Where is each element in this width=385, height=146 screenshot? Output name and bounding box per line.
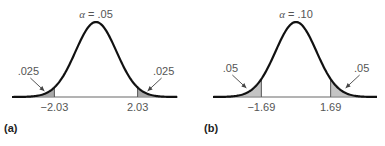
alpha-symbol: α (79, 8, 85, 20)
density-curve (12, 22, 177, 97)
right-critical-label: 2.03 (127, 101, 148, 113)
left-critical-label: −2.03 (40, 101, 68, 113)
alpha-symbol: α (279, 8, 285, 20)
left-tail-label: .025 (18, 65, 39, 77)
left-tail-label: .05 (223, 62, 238, 74)
panel-a: α= .05 .025 .025 −2.03 2.03 (a) (4, 8, 178, 134)
right-critical-label: 1.69 (320, 101, 341, 113)
right-tail-label: .025 (153, 65, 174, 77)
density-curve (213, 22, 377, 97)
alpha-value: = .05 (88, 8, 113, 20)
alpha-value: = .10 (288, 8, 313, 20)
alpha-title: α= .10 (279, 8, 313, 20)
panel-label: (a) (4, 122, 18, 134)
panel-b: α= .10 .05 .05 −1.69 1.69 (b) (204, 8, 377, 134)
panel-label: (b) (204, 122, 218, 134)
figure: α= .05 .025 .025 −2.03 2.03 (a) α= .10 .… (0, 0, 385, 146)
alpha-title: α= .05 (79, 8, 113, 20)
left-critical-label: −1.69 (247, 101, 275, 113)
right-tail-label: .05 (354, 62, 369, 74)
